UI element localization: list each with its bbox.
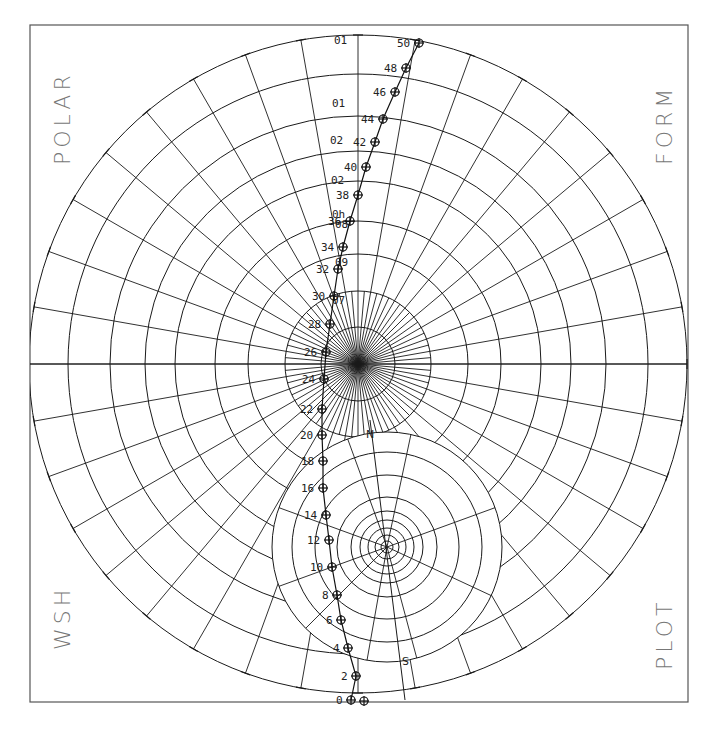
outer-tick <box>518 77 527 82</box>
outer-tick <box>71 195 76 204</box>
data-point: 0 <box>336 694 356 707</box>
outer-tick <box>566 613 574 619</box>
corner-label-plot: PLOT <box>652 599 677 671</box>
data-point: 38 <box>336 189 363 202</box>
point-label: 0 <box>336 694 343 707</box>
outer-tick <box>566 109 574 115</box>
outer-tick <box>33 416 35 426</box>
point-label: 30 <box>312 290 325 303</box>
outer-tick <box>143 109 151 115</box>
north-mark: N <box>366 428 374 441</box>
outer-tick <box>607 149 613 157</box>
data-point: 44 <box>361 113 388 126</box>
point-label: 14 <box>304 509 318 522</box>
point-label: 12 <box>307 534 320 547</box>
point-label: 38 <box>336 189 349 202</box>
end-point <box>359 696 369 706</box>
point-label: 20 <box>300 429 313 442</box>
point-label: 44 <box>361 113 375 126</box>
grid-ray <box>106 153 358 364</box>
point-label: 2 <box>341 670 348 683</box>
outer-tick <box>189 77 198 82</box>
outer-tick <box>518 646 527 651</box>
data-point: 46 <box>373 86 400 99</box>
point-label: 16 <box>301 482 314 495</box>
point-label: 6 <box>326 614 333 627</box>
outer-tick <box>189 646 198 651</box>
point-label: 22 <box>300 403 313 416</box>
south-mark: S <box>402 654 409 667</box>
point-label: 46 <box>373 86 386 99</box>
point-label: 28 <box>308 318 321 331</box>
polar-plot: 010102020h080907 02468101214161820222426… <box>0 0 714 730</box>
outer-tick <box>681 302 683 312</box>
outer-tick <box>640 524 645 533</box>
corner-label-wsh: WSH <box>50 586 75 650</box>
outer-tick <box>143 613 151 619</box>
outer-tick <box>607 572 613 580</box>
outer-tick <box>103 572 109 580</box>
point-label: 8 <box>322 589 329 602</box>
outer-tick <box>640 195 645 204</box>
outer-tick <box>296 39 306 41</box>
point-label: 26 <box>304 346 317 359</box>
outer-tick <box>71 524 76 533</box>
grid-ray <box>358 112 569 364</box>
data-point: 32 <box>316 263 343 276</box>
ring-label: 01 <box>334 34 347 47</box>
point-label: 24 <box>302 373 316 386</box>
point-label: 10 <box>310 561 323 574</box>
corner-label-polar: POLAR <box>50 71 75 165</box>
outer-tick <box>296 687 306 689</box>
outer-tick <box>33 302 35 312</box>
point-label: 36 <box>328 215 341 228</box>
data-point: 48 <box>384 62 411 75</box>
ring-label: 01 <box>332 97 345 110</box>
point-label: 32 <box>316 263 329 276</box>
data-point: 34 <box>321 241 348 254</box>
grid-ray <box>358 153 610 364</box>
point-label: 48 <box>384 62 397 75</box>
point-label: 40 <box>344 161 357 174</box>
ring-label: 02 <box>330 134 343 147</box>
data-point: 20 <box>300 429 327 442</box>
outer-tick <box>681 416 683 426</box>
point-label: 18 <box>301 455 314 468</box>
point-label: 50 <box>397 37 410 50</box>
corner-label-form: FORM <box>652 85 677 165</box>
outer-tick <box>103 149 109 157</box>
data-point: 40 <box>344 161 371 174</box>
point-label: 4 <box>333 642 340 655</box>
ring-label: 02 <box>331 174 344 187</box>
point-label: 42 <box>353 136 366 149</box>
data-point: 42 <box>353 136 380 149</box>
point-label: 34 <box>321 241 335 254</box>
outer-tick <box>410 687 420 689</box>
